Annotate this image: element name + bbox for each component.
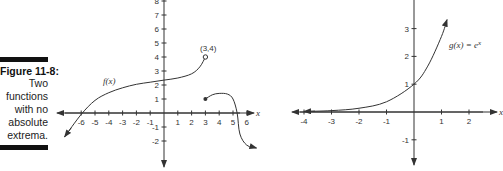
x-tick-label: -4 xyxy=(300,117,308,126)
x-tick-label: 2 xyxy=(467,117,472,126)
x-axis-label: x xyxy=(255,108,260,118)
x-tick-label: -5 xyxy=(91,118,99,127)
x-tick-label: -6 xyxy=(78,118,86,127)
x-tick-label: 1 xyxy=(176,118,181,127)
y-tick-label: 2 xyxy=(405,52,410,61)
y-tick-label: -1 xyxy=(402,136,410,145)
x-tick-label: 1 xyxy=(439,117,444,126)
x-tick-label: 3 xyxy=(203,118,208,127)
closed-endpoint xyxy=(203,97,207,101)
y-tick-label: 3 xyxy=(155,67,160,76)
graph-f-of-x: x-6-5-4-3-2-1123456-2-112345678f(x)(3,4) xyxy=(57,0,260,167)
y-tick-label: 7 xyxy=(155,11,160,20)
function-curve xyxy=(304,20,447,112)
x-tick-label: -4 xyxy=(105,118,113,127)
y-tick-label: -2 xyxy=(152,137,160,146)
x-tick-label: -2 xyxy=(355,117,363,126)
y-tick-label: 2 xyxy=(155,81,160,90)
y-tick-label: -1 xyxy=(152,123,160,132)
figure-graphs: x-6-5-4-3-2-1123456-2-112345678f(x)(3,4)… xyxy=(0,0,503,171)
y-tick-label: 5 xyxy=(155,39,160,48)
y-tick-label: 6 xyxy=(155,25,160,34)
g-of-x-label: g(x) = ex xyxy=(449,39,482,50)
y-tick-label: 4 xyxy=(155,53,160,62)
x-tick-label: 2 xyxy=(189,118,194,127)
x-tick-label: 6 xyxy=(245,118,250,127)
x-tick-label: -2 xyxy=(133,118,141,127)
open-endpoint xyxy=(203,55,207,59)
f-of-x-label: f(x) xyxy=(103,76,116,86)
x-axis-label: x xyxy=(498,107,503,117)
x-tick-label: 4 xyxy=(217,118,222,127)
x-tick-label: 5 xyxy=(231,118,236,127)
y-tick-label: 3 xyxy=(405,25,410,34)
y-tick-label: 8 xyxy=(155,0,160,6)
y-tick-label: 1 xyxy=(155,95,160,104)
x-tick-label: -3 xyxy=(119,118,127,127)
x-tick-label: -3 xyxy=(328,117,336,126)
graph-g-of-x: x-4-3-2-112-1123g(x) = ex xyxy=(292,0,503,165)
x-tick-label: -1 xyxy=(383,117,391,126)
point-label-3-4: (3,4) xyxy=(200,44,217,53)
